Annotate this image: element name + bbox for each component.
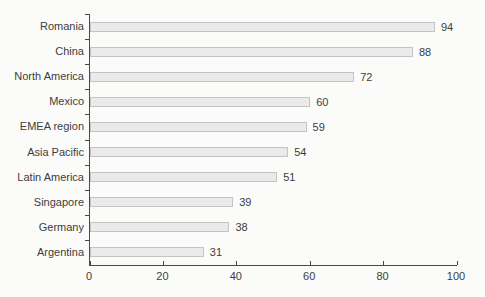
y-axis-tick: [85, 39, 89, 40]
x-tick-label: 40: [219, 270, 253, 282]
y-axis-tick: [85, 64, 89, 65]
y-axis-tick: [85, 190, 89, 191]
x-axis-tick: [90, 261, 91, 265]
y-axis-tick: [85, 240, 89, 241]
bar-value-label: 88: [419, 46, 431, 58]
x-tick-label: 0: [72, 270, 106, 282]
x-tick-label: 60: [292, 270, 326, 282]
category-label: Singapore: [0, 190, 84, 215]
x-axis-tick: [236, 261, 237, 265]
y-axis-tick: [85, 215, 89, 216]
x-axis-tick: [163, 261, 164, 265]
category-label: Romania: [0, 14, 84, 39]
bar-row: 94: [90, 14, 457, 39]
bar-value-label: 39: [239, 196, 251, 208]
bar: [90, 97, 310, 107]
bar-row: 54: [90, 140, 457, 165]
y-axis-tick: [85, 114, 89, 115]
bar-row: 38: [90, 215, 457, 240]
bar-row: 72: [90, 64, 457, 89]
bar-row: 39: [90, 190, 457, 215]
x-tick-label: 100: [439, 270, 473, 282]
y-axis-tick: [85, 89, 89, 90]
bar: [90, 22, 435, 32]
bar-value-label: 51: [283, 171, 295, 183]
bar-value-label: 72: [360, 71, 372, 83]
plot-area: 94887260595451393831: [89, 14, 457, 266]
category-label: Mexico: [0, 89, 84, 114]
x-tick-label: 20: [145, 270, 179, 282]
bar: [90, 72, 354, 82]
category-label: Asia Pacific: [0, 140, 84, 165]
x-tick-label: 80: [366, 270, 400, 282]
bar-value-label: 54: [294, 146, 306, 158]
bar-row: 59: [90, 114, 457, 139]
category-label: China: [0, 39, 84, 64]
bar-value-label: 38: [235, 221, 247, 233]
bar-row: 31: [90, 240, 457, 265]
bar-value-label: 31: [210, 246, 222, 258]
category-label: Germany: [0, 215, 84, 240]
bar-value-label: 60: [316, 96, 328, 108]
category-label: North America: [0, 64, 84, 89]
bar-chart: 94887260595451393831 RomaniaChinaNorth A…: [0, 0, 485, 297]
bar: [90, 197, 233, 207]
bar-value-label: 59: [313, 121, 325, 133]
bar: [90, 172, 277, 182]
bar-row: 88: [90, 39, 457, 64]
bar-row: 60: [90, 89, 457, 114]
bar: [90, 122, 307, 132]
y-axis-tick: [85, 140, 89, 141]
bar: [90, 147, 288, 157]
x-axis-tick: [457, 261, 458, 265]
bar: [90, 247, 204, 257]
x-axis-tick: [383, 261, 384, 265]
bar-value-label: 94: [441, 21, 453, 33]
bar: [90, 222, 229, 232]
y-axis-tick: [85, 14, 89, 15]
category-label: EMEA region: [0, 114, 84, 139]
y-axis-tick: [85, 165, 89, 166]
bar-row: 51: [90, 165, 457, 190]
category-label: Latin America: [0, 165, 84, 190]
x-axis-tick: [310, 261, 311, 265]
bar: [90, 47, 413, 57]
category-label: Argentina: [0, 240, 84, 265]
